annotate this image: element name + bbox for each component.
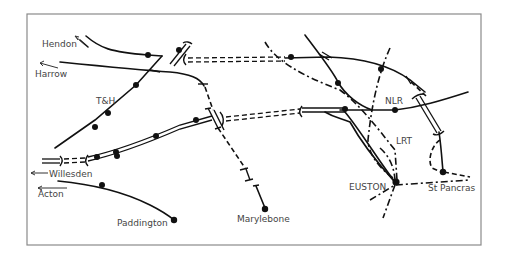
railway-diagram: Hendon Harrow T&H Willesden Acton Paddin… (0, 0, 505, 258)
label-euston: EUSTON (349, 182, 386, 192)
main-line-willesden-euston (42, 106, 345, 166)
label-lrt: LRT (396, 136, 413, 146)
label-nlr: NLR (385, 96, 403, 106)
label-harrow: Harrow (35, 69, 67, 79)
label-marylebone: Marylebone (237, 214, 290, 224)
arrows (31, 36, 85, 190)
paddington-line (58, 181, 177, 223)
label-willesden: Willesden (49, 169, 92, 179)
hendon-line (80, 36, 426, 96)
st-pancras-line (412, 94, 470, 177)
marylebone-line (218, 128, 268, 212)
label-th: T&H (95, 96, 115, 106)
label-st-pancras: St Pancras (428, 183, 476, 193)
label-acton: Acton (38, 189, 64, 199)
label-paddington: Paddington (117, 218, 168, 228)
label-hendon: Hendon (42, 39, 77, 49)
